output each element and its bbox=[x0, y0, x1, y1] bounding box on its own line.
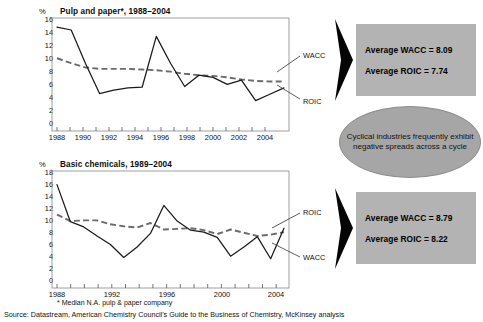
chart1-xtick-2002: 2002 bbox=[225, 133, 253, 142]
chart1-ytick-12: 12 bbox=[33, 41, 53, 50]
callout-top-line2: Average ROIC = 7.74 bbox=[365, 66, 467, 76]
chart1-wacc-line bbox=[57, 58, 284, 81]
chart1-xtick-1988: 1988 bbox=[43, 133, 71, 142]
chart1-plot-frame bbox=[52, 18, 289, 131]
chart1-xtick-2000: 2000 bbox=[199, 133, 227, 142]
chart1-xtick-1996: 1996 bbox=[147, 133, 175, 142]
callout-top-line1: Average WACC = 8.09 bbox=[365, 45, 467, 55]
chart2-ytick-4: 4 bbox=[33, 252, 53, 261]
chart2-xtick-2000: 2000 bbox=[208, 290, 236, 299]
chart2-roic-label: ROIC bbox=[303, 208, 321, 217]
chart2-ytick-6: 6 bbox=[33, 240, 53, 249]
chart2-wacc-label: WACC bbox=[303, 253, 325, 262]
chart1-xtick-2004: 2004 bbox=[251, 133, 279, 142]
chart1-wacc-label: WACC bbox=[303, 51, 325, 60]
chart2-xtick-1996: 1996 bbox=[153, 290, 181, 299]
chart2-ytick-14: 14 bbox=[33, 192, 53, 201]
chart2-ytick-0: 0 bbox=[33, 276, 53, 285]
chart2-xtick-2004: 2004 bbox=[262, 290, 290, 299]
callout-bottom-line2: Average ROIC = 8.22 bbox=[365, 234, 467, 244]
callout-bottom: Average WACC = 8.79 Average ROIC = 8.22 bbox=[356, 192, 476, 264]
chart2-plot-frame bbox=[52, 171, 289, 288]
chart1-xtick-1994: 1994 bbox=[121, 133, 149, 142]
chart1-ytick-0: 0 bbox=[33, 119, 53, 128]
chart1-roic-line bbox=[57, 27, 284, 100]
chart1-xaxis-ticks bbox=[57, 127, 265, 131]
chart1-xtick-1992: 1992 bbox=[95, 133, 123, 142]
chart1-ytick-14: 14 bbox=[33, 28, 53, 37]
chart1-roic-label: ROIC bbox=[303, 97, 321, 106]
callout-ellipse-text: Cyclical industries frequently exhibit n… bbox=[340, 132, 480, 153]
chart2-xaxis-ticks bbox=[57, 284, 276, 288]
chart1-ytick-4: 4 bbox=[33, 93, 53, 102]
chart2-wacc-line bbox=[57, 215, 284, 236]
chart1-leader-lines bbox=[277, 56, 300, 99]
callout-bottom-line1: Average WACC = 8.79 bbox=[365, 213, 467, 223]
chart1-title: Pulp and paper*, 1988–2004 bbox=[60, 7, 170, 16]
chart2-ytick-2: 2 bbox=[33, 264, 53, 273]
chart2-ytick-10: 10 bbox=[33, 216, 53, 225]
figure-source: Source: Datastream, American Chemistry C… bbox=[4, 310, 344, 319]
chart2-title: Basic chemicals, 1989–2004 bbox=[60, 160, 172, 169]
chart2-ytick-18: 18 bbox=[33, 168, 53, 177]
figure-root: Pulp and paper*, 1988–2004 % 16 14 12 10… bbox=[0, 0, 483, 322]
chart1-ytick-10: 10 bbox=[33, 54, 53, 63]
chart2-ytick-16: 16 bbox=[33, 180, 53, 189]
arrow-top bbox=[335, 19, 353, 101]
chart1-xtick-1998: 1998 bbox=[173, 133, 201, 142]
chart1-ytick-6: 6 bbox=[33, 80, 53, 89]
callout-ellipse: Cyclical industries frequently exhibit n… bbox=[339, 106, 481, 178]
chart1-ytick-16: 16 bbox=[33, 15, 53, 24]
arrow-bottom bbox=[335, 188, 353, 269]
chart1-xtick-1990: 1990 bbox=[69, 133, 97, 142]
figure-footnote: * Median N.A. pulp & paper company bbox=[57, 299, 172, 306]
callout-top: Average WACC = 8.09 Average ROIC = 7.74 bbox=[356, 24, 476, 96]
chart2-ytick-8: 8 bbox=[33, 228, 53, 237]
chart2-xtick-1992: 1992 bbox=[98, 290, 126, 299]
chart2-roic-line bbox=[57, 185, 284, 259]
chart2-xtick-1988: 1988 bbox=[43, 290, 71, 299]
chart2-leader-lines bbox=[272, 213, 300, 257]
chart2-ytick-12: 12 bbox=[33, 204, 53, 213]
chart1-ytick-2: 2 bbox=[33, 106, 53, 115]
chart1-ytick-8: 8 bbox=[33, 67, 53, 76]
